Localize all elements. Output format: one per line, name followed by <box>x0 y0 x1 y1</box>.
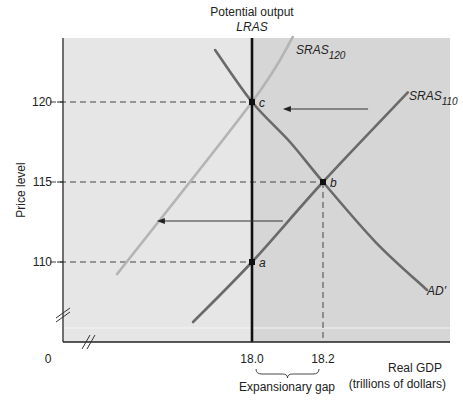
sras120-label-main: SRAS <box>296 43 329 57</box>
sras110-label-sub: 110 <box>442 96 458 107</box>
shaded-region-left-of-potential <box>64 38 252 342</box>
sras110-label-main: SRAS <box>409 89 442 103</box>
lras-label: LRAS <box>236 20 267 34</box>
x-axis-label: Real GDP <box>388 361 442 375</box>
equilibrium-point-b <box>320 179 326 185</box>
y-axis-label: Price level <box>14 162 28 217</box>
ad-label: AD' <box>426 284 447 298</box>
point-label-a: a <box>259 256 266 270</box>
expansionary-gap-brace <box>256 369 319 378</box>
equilibrium-point-c <box>249 99 255 105</box>
x-axis-units: (trillions of dollars) <box>349 377 446 391</box>
y-tick-label-110: 110 <box>33 255 52 269</box>
point-label-b: b <box>330 176 337 190</box>
potential-output-label: Potential output <box>210 5 294 19</box>
point-label-c: c <box>259 96 265 110</box>
chart: Potential output LRAS Real GDP (trillion… <box>0 0 463 403</box>
origin-label: 0 <box>45 352 52 366</box>
equilibrium-point-a <box>249 259 255 265</box>
sras120-label-sub: 120 <box>329 50 346 61</box>
shaded-region-right-of-potential <box>252 38 450 342</box>
x-tick-label-18: 18.0 <box>240 352 264 366</box>
y-tick-label-120: 120 <box>32 95 52 109</box>
x-tick-label-18.2: 18.2 <box>311 352 335 366</box>
expansionary-gap-label: Expansionary gap <box>239 380 335 394</box>
y-tick-label-115: 115 <box>33 175 52 189</box>
